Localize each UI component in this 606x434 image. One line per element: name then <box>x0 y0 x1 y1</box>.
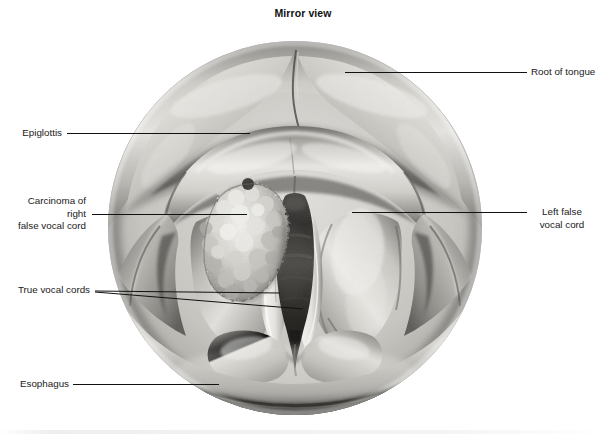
mirror-view-figure <box>0 0 606 434</box>
label-epiglottis: Epiglottis <box>14 127 62 140</box>
label-true-vocal-cords: True vocal cords <box>14 284 90 297</box>
illustration-grain <box>100 34 496 430</box>
label-carcinoma-of-right-false-vocal-cord: Carcinoma of right false vocal cord <box>14 195 86 233</box>
figure-title: Mirror view <box>0 7 606 19</box>
label-root-of-tongue: Root of tongue <box>531 66 603 79</box>
label-left-false-vocal-cord: Left false vocal cord <box>529 206 595 231</box>
larynx-illustration <box>100 34 496 430</box>
label-esophagus: Esophagus <box>14 378 69 391</box>
scan-edge-artifact <box>0 430 606 434</box>
